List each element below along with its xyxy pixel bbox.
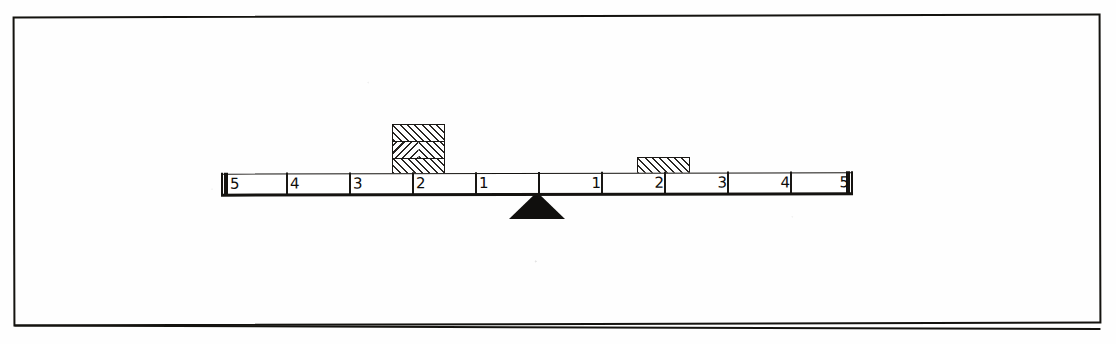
beam-mark-right-3: 3	[665, 174, 730, 193]
beam-mark-left-2: 2	[413, 174, 478, 193]
beam-mark-right-1: 1	[539, 174, 604, 193]
balance-beam[interactable]: 5 4 3 2 1 1 2 3 4 5	[222, 172, 852, 195]
beam-mark-left-3: 3	[350, 174, 415, 193]
fulcrum-triangle-icon	[509, 192, 565, 219]
weight-block[interactable]	[392, 124, 445, 142]
beam-mark-right-2: 2	[602, 174, 667, 193]
beam-mark-right-4: 4	[728, 173, 793, 192]
weight-block[interactable]	[392, 141, 445, 159]
beam-left-tip	[221, 173, 223, 195]
beam-mark-left-4: 4	[287, 174, 352, 193]
beam-mark-left-5: 5	[227, 175, 289, 194]
scanned-page: 5 4 3 2 1 1 2 3 4 5	[0, 0, 1116, 344]
beam-mark-right-5: 5	[791, 173, 852, 192]
lever-apparatus: 5 4 3 2 1 1 2 3 4 5	[0, 0, 1116, 344]
beam-mark-left-1: 1	[476, 174, 541, 193]
